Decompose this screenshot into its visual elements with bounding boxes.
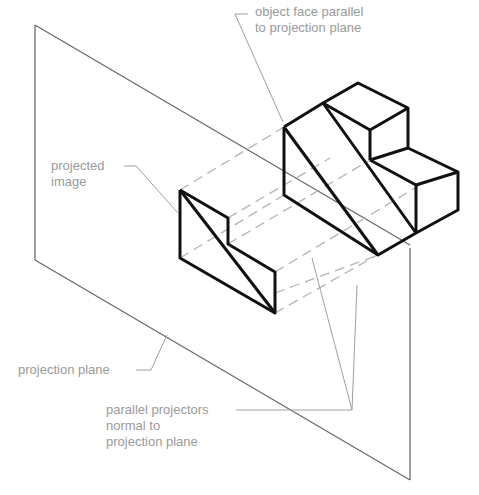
projection-plane [35,25,410,480]
label-object-face-line1: object face parallel [255,4,363,20]
label-object-face: object face parallel to projection plane [255,4,363,36]
label-parallel-projectors-line1: parallel projectors [106,402,209,418]
projected-image [180,190,275,313]
label-object-face-line2: to projection plane [255,20,363,36]
label-parallel-projectors-line3: projection plane [106,434,209,450]
label-projection-plane: projection plane [18,362,110,378]
label-projection-plane-line1: projection plane [18,362,110,378]
label-parallel-projectors: parallel projectors normal to projection… [106,402,209,450]
leader-lines [124,14,357,410]
label-projected-image: projected image [51,158,104,190]
object [284,83,458,255]
projection-diagram [0,0,479,495]
label-parallel-projectors-line2: normal to [106,418,209,434]
label-projected-image-line1: projected [51,158,104,174]
label-projected-image-line2: image [51,174,104,190]
